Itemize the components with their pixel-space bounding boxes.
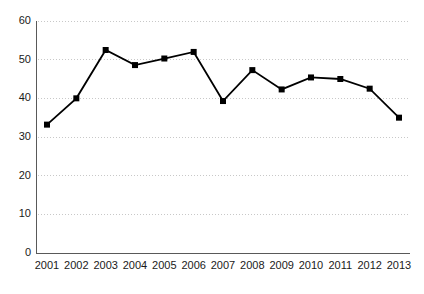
data-point-marker[interactable] (337, 76, 343, 82)
x-tick-label: 2002 (60, 260, 92, 271)
series-markers-group (44, 47, 402, 128)
data-point-marker[interactable] (191, 49, 197, 55)
data-point-marker[interactable] (132, 62, 138, 68)
data-point-marker[interactable] (220, 98, 226, 104)
gridlines-group (38, 21, 410, 253)
y-tick-label: 50 (19, 54, 31, 65)
y-tick-label: 0 (25, 247, 31, 258)
y-tick-label: 20 (19, 170, 31, 181)
data-point-marker[interactable] (367, 86, 373, 92)
data-point-marker[interactable] (308, 74, 314, 80)
x-tick-label: 2008 (236, 260, 268, 271)
data-line (47, 50, 399, 125)
chart-plot-area (0, 0, 424, 294)
data-point-marker[interactable] (279, 86, 285, 92)
x-tick-label: 2011 (324, 260, 356, 271)
data-point-marker[interactable] (103, 47, 109, 53)
line-chart: 0102030405060 20012002200320042005200620… (0, 0, 424, 294)
y-tick-label: 40 (19, 92, 31, 103)
y-tick-label: 60 (19, 15, 31, 26)
x-tick-label: 2004 (119, 260, 151, 271)
data-point-marker[interactable] (44, 122, 50, 128)
x-tick-label: 2013 (383, 260, 415, 271)
data-point-marker[interactable] (161, 56, 167, 62)
data-point-marker[interactable] (73, 95, 79, 101)
x-tick-label: 2003 (90, 260, 122, 271)
data-point-marker[interactable] (249, 67, 255, 73)
x-tick-label: 2006 (178, 260, 210, 271)
y-tick-label: 30 (19, 131, 31, 142)
x-tick-label: 2001 (31, 260, 63, 271)
x-tick-label: 2010 (295, 260, 327, 271)
x-tick-label: 2005 (148, 260, 180, 271)
y-tick-label: 10 (19, 208, 31, 219)
x-tick-label: 2012 (354, 260, 386, 271)
x-tick-label: 2007 (207, 260, 239, 271)
series-line-group (47, 50, 399, 125)
data-point-marker[interactable] (396, 115, 402, 121)
x-tick-label: 2009 (266, 260, 298, 271)
